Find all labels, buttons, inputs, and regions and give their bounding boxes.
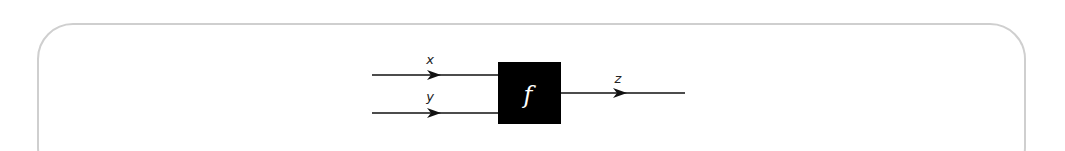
input-y-label: y [425, 89, 434, 104]
input-x-label: x [425, 52, 434, 67]
input-y: y [372, 89, 498, 118]
function-block-diagram: x y f z [0, 0, 1065, 151]
output-z-label: z [614, 71, 623, 86]
input-x: x [372, 52, 498, 80]
output-z: z [561, 71, 685, 98]
function-block: f [498, 62, 561, 124]
